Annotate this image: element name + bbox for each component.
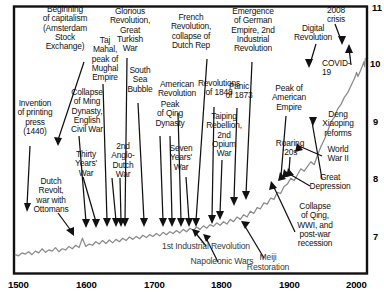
- annotation-peak-of-american-empire: Peak of American Empire: [264, 84, 314, 112]
- annotation-deng-xiaoping-reforms: Deng Xiaoping reforms: [314, 110, 362, 138]
- xtick-1800: 1800: [211, 279, 232, 290]
- annotation-invention-of-printing-press: Invention of printing press (1440): [4, 99, 66, 136]
- xtick-2000: 2000: [346, 279, 367, 290]
- annotation-glorious-revolution: Glorious Revolution, Great Turkish War: [102, 7, 158, 53]
- annotation-first-industrial-revolution: 1st Industrial Revolution: [128, 241, 284, 251]
- ytick-10: 10: [370, 59, 380, 69]
- annotation-dutch-revolt: Dutch Revolt, war with Ottomans: [20, 177, 82, 214]
- annotation-digital-revolution: Digital Revolution: [284, 24, 342, 43]
- annotation-taiping-rebellion: Taiping Rebellion, 2nd Opium War: [202, 112, 246, 158]
- annotation-seven-years-war: Seven Years' War: [162, 144, 200, 172]
- annotation-peak-of-qing-dynasty: Peak of Qing Dynasty: [148, 100, 192, 128]
- ytick-8: 8: [373, 174, 378, 184]
- xtick-1500: 1500: [8, 279, 29, 290]
- annotation-collapse-of-qing: Collapse of Qing, WWI, and post-war rece…: [288, 202, 342, 248]
- annotation-crisis-2008: 2008 crisis: [318, 6, 354, 25]
- xtick-1700: 1700: [144, 279, 165, 290]
- annotation-roaring-twenties: Roaring '20s: [270, 139, 310, 158]
- ytick-11: 11: [372, 3, 382, 13]
- chart-figure: Beginning of capitalism (Amsterdam Stock…: [0, 0, 384, 295]
- annotation-covid-19: COVID- 19: [322, 59, 362, 78]
- xtick-1900: 1900: [279, 279, 300, 290]
- annotation-emergence-of-german-empire: Emergence of German Empire, 2nd Industri…: [220, 7, 286, 53]
- annotation-meiji-restoration: Meiji Restoration: [240, 252, 296, 272]
- annotation-collapse-of-ming: Collapse of Ming Dynasty, English Civil …: [60, 88, 114, 134]
- annotation-second-anglo-dutch-war: 2nd Anglo- Dutch War: [106, 142, 140, 179]
- annotation-panic-of-1873: Panic of 1873: [218, 82, 260, 101]
- annotation-world-war-ii: World War II: [318, 145, 358, 164]
- annotation-thirty-years-war: Thirty Years' War: [68, 150, 104, 178]
- ytick-9: 9: [373, 117, 378, 127]
- xtick-1600: 1600: [76, 279, 97, 290]
- annotation-french-revolution: French Revolution, collapse of Dutch Rep: [160, 13, 222, 50]
- ytick-7: 7: [373, 232, 378, 242]
- annotation-great-depression: Great Depression: [300, 173, 360, 192]
